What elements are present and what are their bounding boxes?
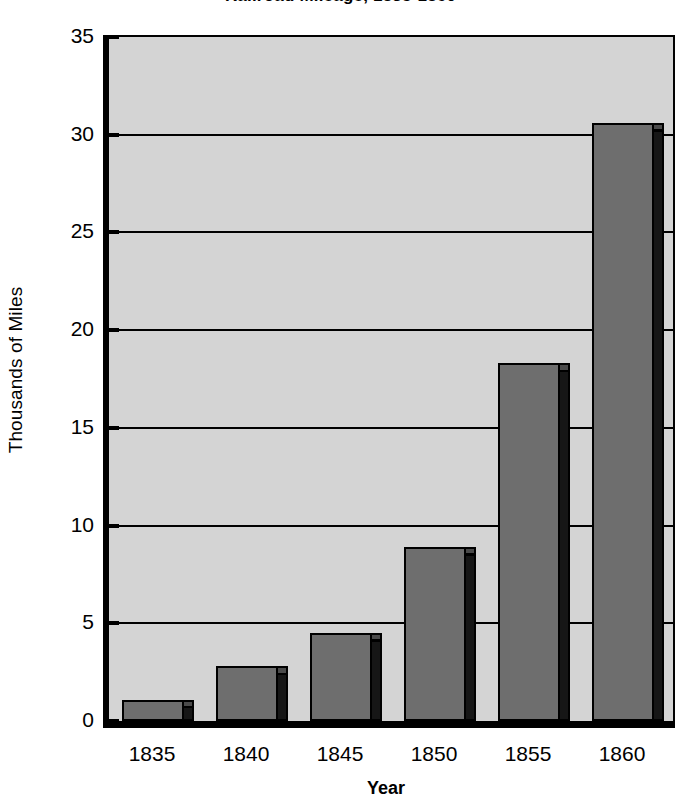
- bar-1855: [498, 363, 560, 721]
- y-axis-tick-mark: [103, 328, 119, 332]
- y-axis-tick-label: 0: [34, 709, 94, 730]
- x-axis-tick-label: 1850: [411, 742, 458, 766]
- x-axis-tick-label: 1845: [317, 742, 364, 766]
- chart-title: Railroad Mileage, 1835-1860: [0, 0, 681, 6]
- y-axis-tick-mark: [103, 230, 119, 234]
- bar-chart: Railroad Mileage, 1835-1860 Thousands of…: [0, 0, 681, 805]
- y-axis-tick-label: 10: [34, 513, 94, 534]
- plot-area: [103, 35, 675, 728]
- x-axis-tick-label: 1840: [223, 742, 270, 766]
- gridline: [109, 525, 673, 527]
- y-axis-tick-label: 20: [34, 318, 94, 339]
- bar-1845: [310, 633, 372, 721]
- gridline: [109, 622, 673, 624]
- y-axis-tick-label: 15: [34, 415, 94, 436]
- gridline: [109, 427, 673, 429]
- y-axis-tick-mark: [103, 719, 119, 723]
- y-axis-tick-label: 30: [34, 122, 94, 143]
- x-axis-tick-label: 1835: [129, 742, 176, 766]
- y-axis-tick-mark: [103, 524, 119, 528]
- y-axis-tick-mark: [103, 133, 119, 137]
- y-axis-tick-labels: 05101520253035: [22, 0, 94, 805]
- y-axis-tick-label: 35: [34, 25, 94, 46]
- y-axis-tick-mark: [103, 35, 119, 39]
- y-axis-tick-label: 25: [34, 220, 94, 241]
- x-axis-tick-labels: 183518401845185018551860: [103, 742, 669, 776]
- gridline: [109, 231, 673, 233]
- y-axis-tick-mark: [103, 426, 119, 430]
- gridline: [109, 134, 673, 136]
- y-axis-tick-mark: [103, 621, 119, 625]
- x-axis-tick-label: 1860: [599, 742, 646, 766]
- bar-1835: [122, 700, 184, 721]
- y-axis-tick-label: 5: [34, 611, 94, 632]
- x-axis-tick-label: 1855: [505, 742, 552, 766]
- x-axis-title: Year: [103, 778, 669, 799]
- gridline: [109, 329, 673, 331]
- bar-1850: [404, 547, 466, 721]
- bar-1840: [216, 666, 278, 721]
- bar-1860: [592, 123, 654, 721]
